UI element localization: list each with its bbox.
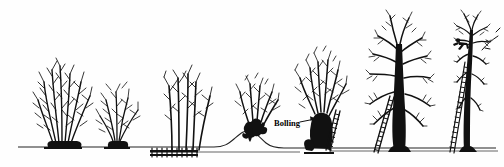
bolling-annotation: Bolling [274, 116, 316, 128]
bolling-label: Bolling [274, 118, 301, 128]
tree-2-young-coppice [96, 82, 140, 149]
edge-branch-fragment [482, 28, 500, 50]
illustration-scene: Bolling [0, 0, 504, 167]
tree-4-low-stub-on-mound [235, 73, 280, 142]
tree-6-shredded-tree [365, 10, 435, 153]
tree-3-coppice-with-fence [150, 65, 213, 157]
tree-7-tall-pollard-with-climber [450, 10, 491, 153]
ladder-2 [374, 96, 394, 153]
tree-5-pollard-with-bolling [295, 46, 349, 154]
hurdle-fence-tree-3 [150, 148, 198, 157]
tree-forms-illustration: Bolling [0, 0, 504, 167]
tree-1-coppice-stool [33, 58, 93, 149]
